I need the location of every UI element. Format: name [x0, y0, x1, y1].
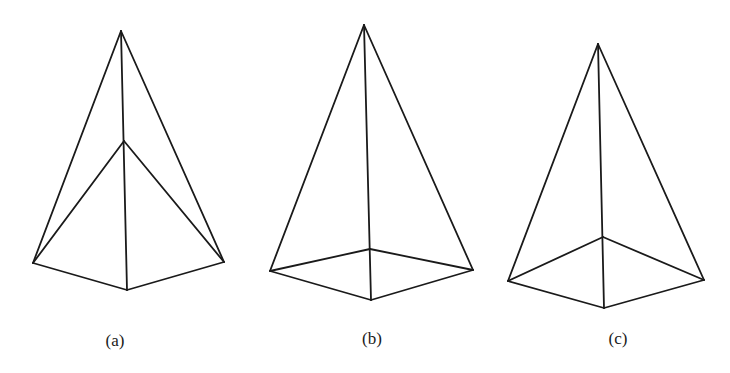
edge-apex-right: [598, 44, 704, 280]
pyramid-figure-b: [270, 25, 473, 300]
figure-label-b: (b): [362, 329, 382, 348]
edge-apex-right: [364, 25, 473, 270]
edge-left-bottom: [33, 263, 127, 290]
edge-left-back: [270, 249, 370, 271]
edge-apex-left: [33, 31, 121, 263]
edge-apex-bottom: [598, 44, 604, 308]
pyramid-diagram: (a) (b) (c): [0, 0, 730, 373]
edge-inner-left: [33, 141, 124, 263]
edge-apex-bottom: [364, 25, 371, 300]
edge-bottom-right: [371, 270, 473, 300]
edge-left-bottom: [270, 271, 371, 300]
edge-bottom-right: [604, 280, 704, 308]
edge-apex-left: [270, 25, 364, 271]
figure-label-c: (c): [609, 329, 628, 348]
pyramid-figure-c: [508, 44, 704, 308]
figure-label-a: (a): [106, 331, 125, 350]
pyramid-figure-a: [33, 31, 224, 290]
edge-inner-right: [124, 141, 224, 262]
edge-left-bottom: [508, 281, 604, 308]
edge-bottom-right: [127, 262, 224, 290]
edge-apex-bottom: [121, 31, 127, 290]
edge-apex-right: [121, 31, 224, 262]
edge-back-right: [603, 237, 704, 280]
edge-back-right: [370, 249, 473, 270]
